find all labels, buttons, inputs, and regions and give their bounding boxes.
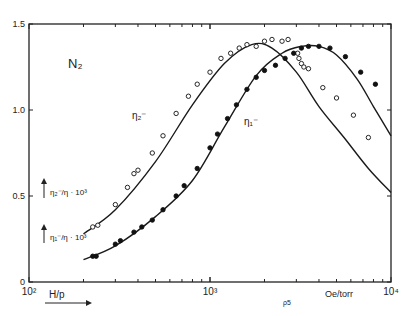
data-point-open <box>262 39 266 43</box>
data-point-open <box>96 223 100 227</box>
y-tick-label: 0.5 <box>12 191 25 201</box>
data-point-filled <box>234 103 238 107</box>
data-point-filled <box>358 70 362 74</box>
data-point-filled <box>343 54 347 58</box>
data-point-filled <box>299 46 303 50</box>
data-point-open <box>280 39 284 43</box>
gas-label: N₂ <box>68 56 82 71</box>
data-point-open <box>219 56 223 60</box>
data-point-filled <box>132 230 136 234</box>
fit-curve-eta2 <box>83 43 391 233</box>
y-tick-label: 1.5 <box>12 19 25 29</box>
data-point-open <box>254 44 258 48</box>
data-point-open <box>228 51 232 55</box>
curve-label-eta2: η₂⁻ <box>132 110 146 121</box>
data-point-open <box>302 65 306 69</box>
x-arrow-icon <box>86 300 92 306</box>
data-point-filled <box>118 239 122 243</box>
data-point-open <box>351 113 355 117</box>
data-point-filled <box>254 75 258 79</box>
y-label-upper: η₂⁻/η · 10³ <box>50 188 87 197</box>
chart-figure: 10²10³10⁴00.51.01.5 N₂ η₂⁻ η₁⁻ H/p Oe/to… <box>0 0 408 316</box>
data-point-open <box>297 56 301 60</box>
data-point-filled <box>208 146 212 150</box>
y-label-lower-text: η₁⁻/η · 10³ <box>50 233 87 242</box>
data-point-filled <box>317 44 321 48</box>
data-points <box>91 37 378 258</box>
y-tick-label: 0 <box>20 277 25 287</box>
data-point-open <box>208 70 212 74</box>
data-point-open <box>113 202 117 206</box>
data-point-filled <box>306 44 310 48</box>
data-point-filled <box>113 242 117 246</box>
y-arrow-icon <box>41 224 47 230</box>
data-point-open <box>186 94 190 98</box>
data-point-open <box>174 111 178 115</box>
data-point-filled <box>245 87 249 91</box>
data-point-open <box>306 67 310 71</box>
x-tick-label: 10⁴ <box>383 286 398 297</box>
data-point-open <box>334 96 338 100</box>
data-point-filled <box>328 46 332 50</box>
x-tick-label: 10² <box>22 286 37 297</box>
data-point-open <box>195 82 199 86</box>
data-point-open <box>161 134 165 138</box>
data-point-open <box>136 168 140 172</box>
data-point-filled <box>273 63 277 67</box>
data-point-filled <box>262 68 266 72</box>
curve-label-eta1: η₁⁻ <box>244 116 258 127</box>
data-point-open <box>286 37 290 41</box>
y-label-upper-text: η₂⁻/η · 10³ <box>50 188 87 197</box>
data-point-open <box>132 171 136 175</box>
fit-curves <box>83 43 391 259</box>
data-point-filled <box>140 225 144 229</box>
data-point-filled <box>182 183 186 187</box>
data-point-filled <box>291 51 295 55</box>
data-point-filled <box>94 254 98 258</box>
data-point-filled <box>225 116 229 120</box>
x-tick-label: 10³ <box>203 286 218 297</box>
x-axis-label: H/p <box>49 289 65 300</box>
data-point-filled <box>150 218 154 222</box>
data-point-open <box>91 225 95 229</box>
y-tick-label: 1.0 <box>12 105 25 115</box>
data-point-filled <box>373 82 377 86</box>
data-point-open <box>321 85 325 89</box>
data-point-filled <box>174 194 178 198</box>
stray-mark: ρ5 <box>283 299 291 307</box>
data-point-open <box>125 185 129 189</box>
data-point-filled <box>195 166 199 170</box>
data-point-open <box>270 37 274 41</box>
data-point-filled <box>161 208 165 212</box>
data-point-open <box>366 135 370 139</box>
data-point-open <box>150 151 154 155</box>
y-arrow-icon <box>41 178 47 184</box>
fit-curve-eta1 <box>83 45 391 259</box>
data-point-open <box>245 42 249 46</box>
data-point-open <box>237 46 241 50</box>
y-label-lower: η₁⁻/η · 10³ <box>50 233 87 242</box>
data-point-filled <box>215 132 219 136</box>
data-point-filled <box>283 56 287 60</box>
x-unit-label: Oe/torr <box>325 289 353 299</box>
